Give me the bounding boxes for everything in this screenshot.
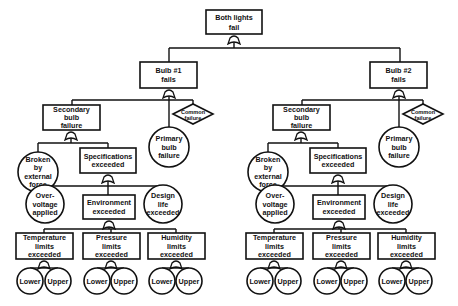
temperature-upper-label: Upper (278, 277, 299, 286)
primary-bulb-failure-node: Primarybulbfailure (379, 127, 419, 167)
pressure-upper-label: Upper (114, 277, 135, 286)
pressure-limits-exceeded-label-line3: exceeded (95, 250, 128, 259)
humidity-lower-label: Lower (151, 277, 172, 286)
over-voltage-applied-label-line3: applied (32, 208, 57, 217)
common-failure-label-line2: failure (185, 115, 202, 121)
top-event-label-line1: Both lights (215, 13, 253, 22)
bulb-fails-label-line2: fails (391, 75, 405, 84)
secondary-bulb-failure-node: Secondarybulbfailure (43, 105, 100, 130)
temperature-lower-node: Lower (17, 268, 43, 294)
secondary-bulb-failure-label-line3: failure (291, 121, 313, 130)
common-failure-node: Commonfailure (173, 104, 213, 124)
humidity-limits-exceeded-node: Humiditylimitsexceeded (148, 233, 205, 259)
fault-tree-diagram: Both lights fail Bulb #1failsSecondarybu… (0, 0, 458, 306)
over-voltage-applied-node: Over-voltageapplied (26, 185, 64, 223)
pressure-lower-node: Lower (84, 268, 110, 294)
design-life-exceeded-label-line3: exceeded (147, 208, 180, 217)
design-life-exceeded-node: Designlifeexceeded (374, 185, 412, 223)
primary-bulb-failure-node: Primarybulbfailure (149, 127, 189, 167)
design-life-exceeded-node: Designlifeexceeded (144, 185, 182, 223)
specifications-exceeded-node: Specificationsexceeded (310, 148, 366, 173)
pressure-lower-node: Lower (314, 268, 340, 294)
environment-exceeded-label-line2: exceeded (323, 207, 356, 216)
temperature-limits-exceeded-node: Temperaturelimitsexceeded (16, 233, 73, 259)
humidity-upper-label: Upper (409, 277, 430, 286)
pressure-limits-exceeded-node: Pressurelimitsexceeded (313, 233, 370, 259)
top-event-node: Both lights fail (206, 10, 262, 34)
humidity-upper-node: Upper (176, 268, 202, 294)
specifications-exceeded-node: Specificationsexceeded (80, 148, 136, 173)
temperature-limits-exceeded-label-line3: exceeded (258, 250, 291, 259)
common-failure-node: Commonfailure (403, 104, 443, 124)
design-life-exceeded-label-line3: exceeded (377, 208, 410, 217)
pressure-upper-node: Upper (341, 268, 367, 294)
secondary-bulb-failure-node: Secondarybulbfailure (273, 105, 330, 130)
temperature-lower-label: Lower (249, 277, 270, 286)
pressure-upper-label: Upper (344, 277, 365, 286)
humidity-lower-label: Lower (381, 277, 402, 286)
temperature-upper-label: Upper (48, 277, 69, 286)
bulb-fails-node: Bulb #2fails (370, 62, 427, 88)
humidity-limits-exceeded-label-line3: exceeded (160, 250, 193, 259)
temperature-lower-node: Lower (247, 268, 273, 294)
humidity-upper-node: Upper (406, 268, 432, 294)
branch-bulb2: Bulb #2failsSecondarybulbfailurePrimaryb… (246, 62, 443, 294)
humidity-limits-exceeded-node: Humiditylimitsexceeded (378, 233, 435, 259)
humidity-lower-node: Lower (149, 268, 175, 294)
over-voltage-applied-label-line3: applied (262, 208, 287, 217)
pressure-upper-node: Upper (111, 268, 137, 294)
branch-bulb1: Bulb #1failsSecondarybulbfailurePrimaryb… (16, 62, 213, 294)
bulb-fails-label-line2: fails (161, 75, 175, 84)
common-failure-label-line2: failure (415, 115, 432, 121)
temperature-lower-label: Lower (19, 277, 40, 286)
bulb-fails-node: Bulb #1fails (140, 62, 197, 88)
secondary-bulb-failure-label-line3: failure (61, 121, 83, 130)
environment-exceeded-label-line2: exceeded (93, 207, 126, 216)
pressure-lower-label: Lower (316, 277, 337, 286)
humidity-limits-exceeded-label-line3: exceeded (390, 250, 423, 259)
specifications-exceeded-label-line2: exceeded (92, 160, 125, 169)
over-voltage-applied-node: Over-voltageapplied (256, 185, 294, 223)
temperature-limits-exceeded-node: Temperaturelimitsexceeded (246, 233, 303, 259)
temperature-limits-exceeded-label-line3: exceeded (28, 250, 61, 259)
pressure-lower-label: Lower (86, 277, 107, 286)
pressure-limits-exceeded-node: Pressurelimitsexceeded (83, 233, 140, 259)
humidity-lower-node: Lower (379, 268, 405, 294)
humidity-upper-label: Upper (179, 277, 200, 286)
temperature-upper-node: Upper (45, 268, 71, 294)
temperature-upper-node: Upper (275, 268, 301, 294)
primary-bulb-failure-label-line3: failure (158, 151, 180, 160)
primary-bulb-failure-label-line3: failure (388, 151, 410, 160)
top-event-label-line2: fail (229, 23, 239, 32)
specifications-exceeded-label-line2: exceeded (322, 160, 355, 169)
pressure-limits-exceeded-label-line3: exceeded (325, 250, 358, 259)
environment-exceeded-node: Environmentexceeded (83, 195, 135, 219)
environment-exceeded-node: Environmentexceeded (313, 195, 365, 219)
